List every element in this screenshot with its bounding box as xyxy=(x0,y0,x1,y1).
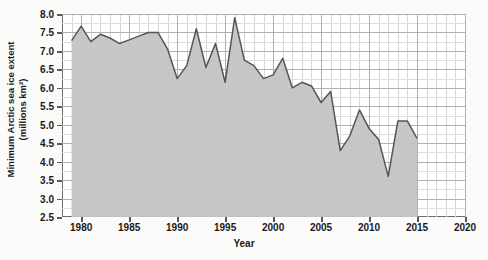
x-tick-label: 2000 xyxy=(250,222,296,233)
y-axis-title-line2: (millions km²) xyxy=(17,41,29,177)
x-tick-label: 1980 xyxy=(58,222,104,233)
y-tick-mark xyxy=(57,217,62,219)
x-tick-label: 2010 xyxy=(346,222,392,233)
plot-area xyxy=(62,14,465,217)
y-tick-mark xyxy=(57,69,62,71)
y-tick-label: 5.5 xyxy=(28,101,54,112)
series-area-line xyxy=(62,14,465,217)
x-tick-label: 1995 xyxy=(202,222,248,233)
y-tick-mark xyxy=(57,51,62,53)
y-tick-mark xyxy=(57,14,62,16)
x-tick-mark xyxy=(129,217,131,222)
y-axis-title-line1: Minimum Arctic sea ice extent xyxy=(6,41,18,177)
y-tick-mark xyxy=(57,143,62,145)
y-tick-mark xyxy=(57,199,62,201)
x-tick-mark xyxy=(225,217,227,222)
x-tick-mark xyxy=(177,217,179,222)
x-tick-mark xyxy=(417,217,419,222)
y-tick-label: 3.0 xyxy=(28,193,54,204)
chart-figure: Minimum Arctic sea ice extent (millions … xyxy=(0,0,488,260)
y-tick-mark xyxy=(57,125,62,127)
gridline-major-vertical xyxy=(465,14,466,217)
y-tick-mark xyxy=(57,180,62,182)
x-tick-label: 2020 xyxy=(442,222,488,233)
y-tick-label: 4.0 xyxy=(28,156,54,167)
x-tick-mark xyxy=(321,217,323,222)
y-tick-label: 7.0 xyxy=(28,45,54,56)
x-tick-mark xyxy=(81,217,83,222)
x-tick-label: 1990 xyxy=(154,222,200,233)
y-tick-label: 5.0 xyxy=(28,119,54,130)
y-tick-mark xyxy=(57,162,62,164)
x-tick-label: 2005 xyxy=(298,222,344,233)
y-tick-label: 6.0 xyxy=(28,82,54,93)
y-tick-label: 7.5 xyxy=(28,27,54,38)
y-tick-mark xyxy=(57,88,62,90)
series-fill xyxy=(72,18,417,217)
y-tick-label: 3.5 xyxy=(28,175,54,186)
x-tick-mark xyxy=(465,217,467,222)
x-axis-title: Year xyxy=(0,238,488,249)
y-tick-label: 8.0 xyxy=(28,9,54,20)
x-tick-mark xyxy=(273,217,275,222)
y-tick-mark xyxy=(57,106,62,108)
y-tick-label: 2.5 xyxy=(28,212,54,223)
x-tick-mark xyxy=(369,217,371,222)
x-tick-label: 1985 xyxy=(106,222,152,233)
y-tick-label: 4.5 xyxy=(28,138,54,149)
y-tick-label: 6.5 xyxy=(28,64,54,75)
y-tick-mark xyxy=(57,32,62,34)
x-tick-label: 2015 xyxy=(394,222,440,233)
